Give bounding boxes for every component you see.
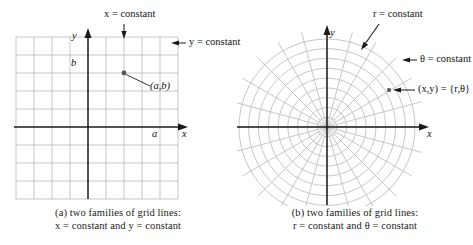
caption-a-line2: x = constant and y = constant [0, 219, 236, 232]
label-a: a [152, 128, 157, 139]
polar-y-axis-label: y [330, 27, 335, 38]
annotation-y-constant: y = constant [189, 36, 240, 47]
label-b: b [71, 57, 76, 68]
polar-point-pointer-arrow [393, 87, 415, 92]
horizontal-grid-lines [16, 37, 178, 199]
polar-point-marker [387, 88, 391, 92]
polar-y-axis [324, 25, 331, 205]
y-constant-pointer-arrow [171, 40, 186, 45]
polar-radial-lines [237, 29, 425, 206]
caption-b-line1: (b) two families of grid lines: [237, 206, 473, 219]
theta-constant-pointer-arrow [402, 57, 417, 62]
caption-b-line2: r = constant and θ = constant [237, 219, 473, 232]
vertical-grid-lines [16, 37, 178, 199]
annotation-r-constant: r = constant [373, 8, 423, 19]
x-axis [14, 124, 188, 131]
y-axis [85, 28, 92, 199]
polar-x-axis [237, 124, 429, 131]
point-a-b-leader [126, 75, 150, 87]
cartesian-x-axis-label: x [182, 128, 187, 139]
polar-point-label: (x,y) = {r,θ} [418, 83, 470, 94]
point-a-b-marker [122, 71, 127, 76]
cartesian-plot [0, 0, 236, 206]
annotation-x-constant: x = constant [104, 8, 155, 19]
r-constant-pointer-arrow [361, 24, 379, 50]
caption-panel-a: (a) two families of grid lines: x = cons… [0, 206, 236, 232]
polar-x-axis-label: x [427, 128, 432, 139]
annotation-theta-constant: θ = constant [420, 53, 471, 64]
cartesian-y-axis-label: y [72, 30, 77, 41]
caption-panel-b: (b) two families of grid lines: r = cons… [237, 206, 473, 232]
caption-a-line1: (a) two families of grid lines: [0, 206, 236, 219]
polar-plot [237, 0, 473, 206]
point-a-b-label: (a,b) [150, 80, 170, 91]
cartesian-figure: y x b a (a,b) x = constant y = constant … [0, 0, 236, 245]
polar-figure: y x r = constant θ = constant (x,y) = {r… [237, 0, 473, 245]
